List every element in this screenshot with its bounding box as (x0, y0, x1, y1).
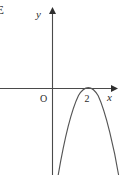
y-axis-label: y (35, 8, 41, 20)
x-intercept-label: 2 (85, 93, 90, 104)
y-axis-arrow-icon (49, 7, 56, 14)
origin-label: O (40, 93, 47, 104)
math-figure: E y x O 2 (0, 0, 121, 175)
plot-canvas: y x O 2 (0, 0, 121, 175)
x-axis-arrow-icon (111, 85, 118, 92)
x-axis-label: x (106, 91, 112, 103)
